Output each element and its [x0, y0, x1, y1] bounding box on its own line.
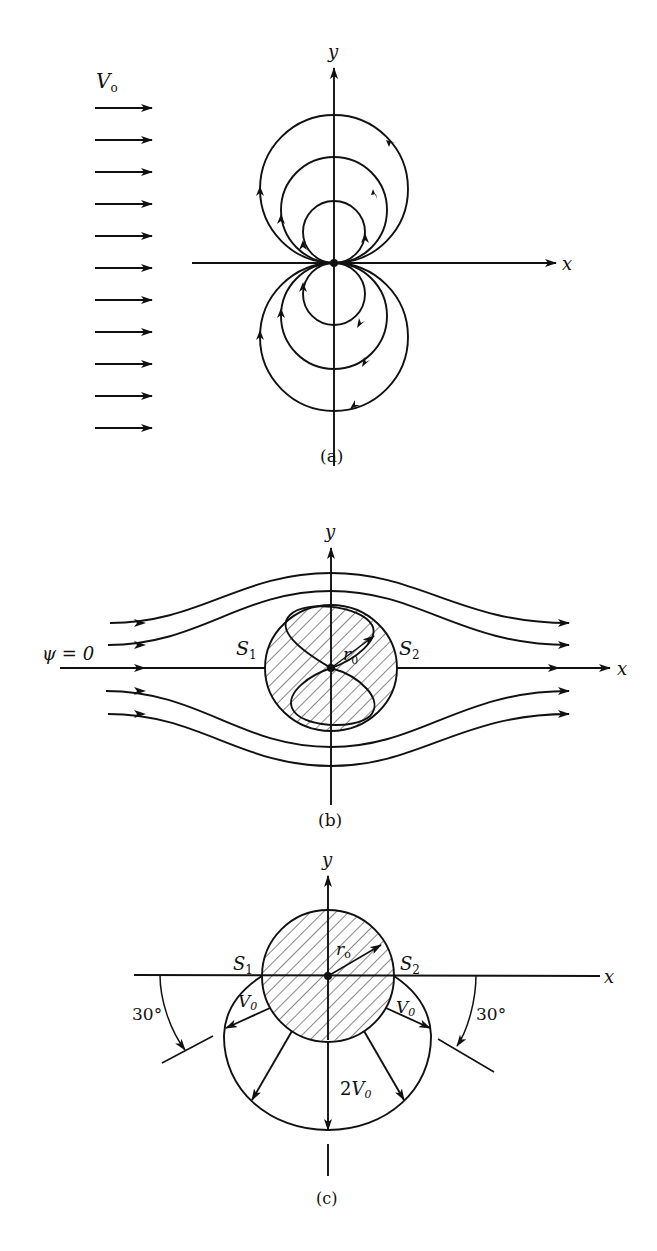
v0-right-label: V0: [396, 997, 415, 1019]
angle-right-label: 30°: [476, 1004, 506, 1024]
origin-point: [327, 664, 335, 672]
origin-point: [330, 259, 338, 267]
v-bottom-label: 2V0: [340, 1078, 371, 1101]
panel-caption: (c): [316, 1189, 337, 1208]
x-axis-label: x: [562, 253, 572, 274]
v0-label: Vo: [96, 69, 118, 95]
panel-caption: (a): [320, 446, 343, 466]
s2-label: S2: [400, 953, 420, 977]
s1-label: S1: [236, 637, 257, 662]
figure-canvas: Vo x y: [0, 0, 657, 1251]
y-axis-label: y: [321, 849, 333, 870]
uniform-flow-arrows: [95, 108, 152, 428]
psi-label: ψ = 0: [42, 643, 94, 664]
panel-caption: (b): [318, 810, 342, 830]
panel-a: Vo x y: [95, 41, 572, 466]
y-axis-label: y: [327, 41, 339, 62]
x-axis-label: x: [604, 966, 614, 987]
x-axis-label: x: [617, 658, 627, 679]
origin-point: [324, 972, 332, 980]
angle-left-label: 30°: [132, 1004, 162, 1024]
x-axis: [134, 975, 600, 976]
s1-label: S1: [233, 953, 253, 977]
panel-b: y x ψ = 0 S1 S2 r0 (b): [42, 521, 627, 830]
s2-label: S2: [399, 637, 420, 662]
y-axis-label: y: [324, 521, 336, 542]
panel-c: x y ro 30° 30° S1 S2 V0 V0 2V0 (c): [132, 849, 614, 1208]
v0-left-label: V0: [238, 991, 257, 1013]
